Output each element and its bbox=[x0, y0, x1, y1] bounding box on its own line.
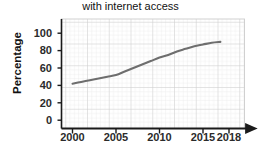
y-tick-label-60: 60 bbox=[26, 63, 52, 74]
grid-lines bbox=[62, 19, 245, 129]
x-tick-label-2005: 2005 bbox=[96, 132, 136, 143]
x-tick-label-2000: 2000 bbox=[53, 132, 93, 143]
x-tick-label-2018: 2018 bbox=[209, 132, 249, 143]
chart-figure: with internet access Percentage bbox=[0, 0, 261, 144]
x-tick-label-2010: 2010 bbox=[140, 132, 180, 143]
y-tick-label-20: 20 bbox=[26, 98, 52, 109]
y-tick-label-80: 80 bbox=[26, 45, 52, 56]
y-tick-label-100: 100 bbox=[26, 28, 52, 39]
y-tick-label-40: 40 bbox=[26, 80, 52, 91]
y-tick-label-0: 0 bbox=[26, 115, 52, 126]
